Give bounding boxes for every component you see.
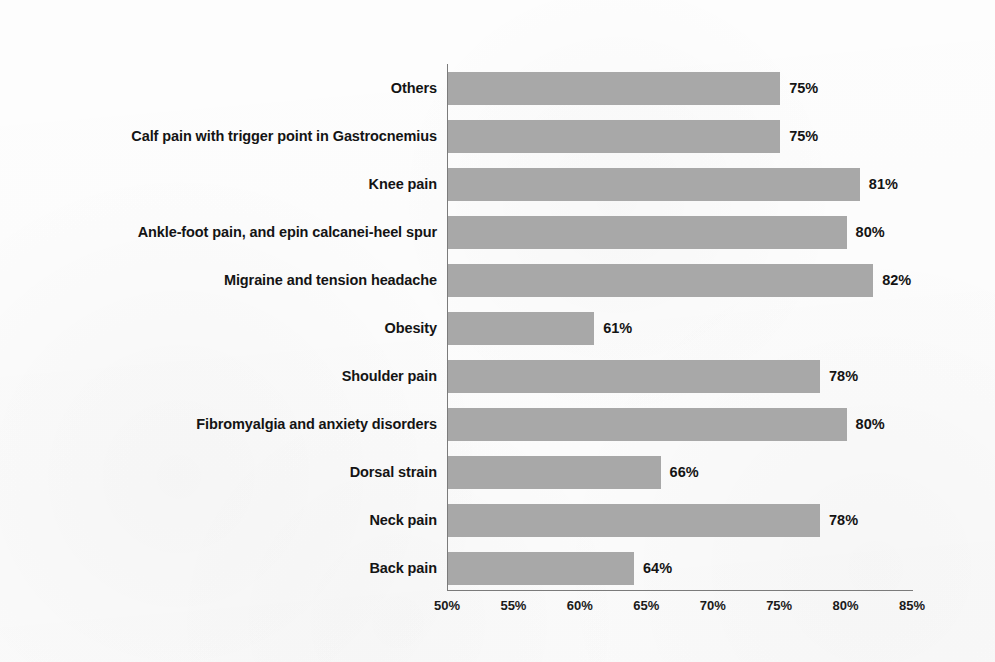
bar-row: Calf pain with trigger point in Gastrocn… bbox=[0, 112, 995, 160]
bar-value-label: 81% bbox=[869, 176, 898, 192]
bar-container bbox=[448, 552, 634, 585]
bar-value-label: 66% bbox=[670, 464, 699, 480]
bar-chart: Others75%Calf pain with trigger point in… bbox=[0, 0, 995, 662]
bar-row: Shoulder pain78% bbox=[0, 352, 995, 400]
category-label: Dorsal strain bbox=[0, 464, 437, 480]
bar-container bbox=[448, 72, 780, 105]
x-axis-tick-label: 50% bbox=[434, 598, 460, 613]
category-label: Fibromyalgia and anxiety disorders bbox=[0, 416, 437, 432]
bar-container bbox=[448, 264, 873, 297]
bar-value-label: 78% bbox=[829, 368, 858, 384]
bar-row: Fibromyalgia and anxiety disorders80% bbox=[0, 400, 995, 448]
x-axis-tick-label: 75% bbox=[766, 598, 792, 613]
bar-value-label: 80% bbox=[856, 224, 885, 240]
bar bbox=[448, 552, 634, 585]
bar bbox=[448, 264, 873, 297]
bar-row: Knee pain81% bbox=[0, 160, 995, 208]
bar bbox=[448, 408, 847, 441]
bar-container bbox=[448, 216, 847, 249]
x-axis-tick-label: 85% bbox=[899, 598, 925, 613]
x-axis-tick-label: 70% bbox=[700, 598, 726, 613]
bar-value-label: 80% bbox=[856, 416, 885, 432]
category-label: Obesity bbox=[0, 320, 437, 336]
bar bbox=[448, 168, 860, 201]
bar-row: Back pain64% bbox=[0, 544, 995, 592]
bar-row: Neck pain78% bbox=[0, 496, 995, 544]
bar bbox=[448, 456, 661, 489]
bar bbox=[448, 504, 820, 537]
bar-container bbox=[448, 360, 820, 393]
bar-container bbox=[448, 504, 820, 537]
bar-container bbox=[448, 120, 780, 153]
x-axis-tick-label: 65% bbox=[633, 598, 659, 613]
category-label: Back pain bbox=[0, 560, 437, 576]
bar bbox=[448, 360, 820, 393]
bar-row: Ankle-foot pain, and epin calcanei-heel … bbox=[0, 208, 995, 256]
x-axis-tick-label: 80% bbox=[833, 598, 859, 613]
bar-container bbox=[448, 168, 860, 201]
x-axis-tick-label: 55% bbox=[500, 598, 526, 613]
bar bbox=[448, 216, 847, 249]
bar-container bbox=[448, 456, 661, 489]
bar-row: Obesity61% bbox=[0, 304, 995, 352]
category-label: Calf pain with trigger point in Gastrocn… bbox=[0, 128, 437, 144]
bar-container bbox=[448, 408, 847, 441]
bar bbox=[448, 312, 594, 345]
bar bbox=[448, 120, 780, 153]
bar-value-label: 75% bbox=[789, 80, 818, 96]
bar-row: Others75% bbox=[0, 64, 995, 112]
bar-row: Dorsal strain66% bbox=[0, 448, 995, 496]
bar-value-label: 78% bbox=[829, 512, 858, 528]
category-label: Migraine and tension headache bbox=[0, 272, 437, 288]
category-label: Shoulder pain bbox=[0, 368, 437, 384]
x-axis-tick-label: 60% bbox=[567, 598, 593, 613]
bar-value-label: 61% bbox=[603, 320, 632, 336]
category-label: Neck pain bbox=[0, 512, 437, 528]
bar-value-label: 82% bbox=[882, 272, 911, 288]
bar-value-label: 75% bbox=[789, 128, 818, 144]
category-label: Ankle-foot pain, and epin calcanei-heel … bbox=[0, 224, 437, 240]
bar bbox=[448, 72, 780, 105]
category-label: Others bbox=[0, 80, 437, 96]
bar-container bbox=[448, 312, 594, 345]
bar-row: Migraine and tension headache82% bbox=[0, 256, 995, 304]
category-label: Knee pain bbox=[0, 176, 437, 192]
bar-value-label: 64% bbox=[643, 560, 672, 576]
